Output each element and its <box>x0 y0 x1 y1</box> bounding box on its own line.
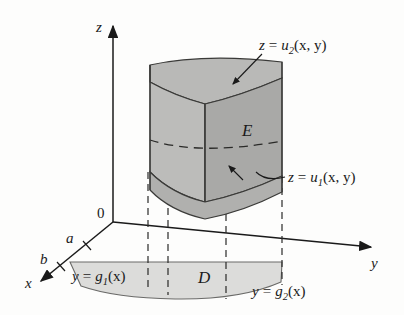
solid-region-e <box>150 58 282 219</box>
diagram-canvas: z y x 0 a b E D z=u2(x, <box>0 0 404 315</box>
right-boundary-label: y=g2(x) <box>250 283 305 302</box>
origin-label: 0 <box>97 205 105 221</box>
axis-label-x: x <box>24 275 32 291</box>
solid-label-e: E <box>241 121 253 140</box>
tick-label-b: b <box>40 251 48 267</box>
lower-surface-label: z=u1(x, y) <box>287 169 356 188</box>
tick-label-a: a <box>66 230 74 246</box>
y-axis <box>113 222 371 247</box>
diagram-container: z y x 0 a b E D z=u2(x, <box>0 0 404 315</box>
projection-label-d: D <box>197 268 211 287</box>
axis-label-z: z <box>95 19 102 35</box>
axis-label-y: y <box>369 255 378 271</box>
upper-surface-label: z=u2(x, y) <box>258 37 327 56</box>
